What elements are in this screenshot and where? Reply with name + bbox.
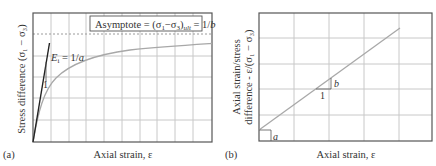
- slope-run-label-a: 1: [43, 79, 48, 90]
- panel-a-grid: [33, 13, 212, 142]
- panel-b-frame: [259, 13, 432, 141]
- panel-b-ylabel-line1: Axial strain/stress: [231, 39, 242, 115]
- panel-b: a b 1 Axial strain/stress difference - ε…: [225, 13, 432, 161]
- panel-b-grid: [259, 13, 432, 141]
- panel-a-label: (a): [3, 149, 15, 161]
- panel-a: Asymptote = (σ1−σ3)ult = 1/b Ei = 1/a 1 …: [3, 13, 216, 161]
- panel-b-label: (b): [225, 149, 238, 161]
- slope-run-label-b: 1: [320, 90, 325, 101]
- panel-b-ylabel-line2: difference - ε/(σ₁ − σ₃): [243, 29, 255, 125]
- intercept-label: a: [273, 131, 278, 142]
- panel-b-xlabel: Axial strain, ε: [317, 149, 377, 160]
- initial-tangent-line: [33, 43, 50, 142]
- panel-a-ylabel: Stress difference (σ₁ − σ₃): [16, 24, 28, 134]
- slope-rise-label: b: [334, 78, 339, 89]
- panel-a-xlabel: Axial strain, ε: [94, 149, 154, 160]
